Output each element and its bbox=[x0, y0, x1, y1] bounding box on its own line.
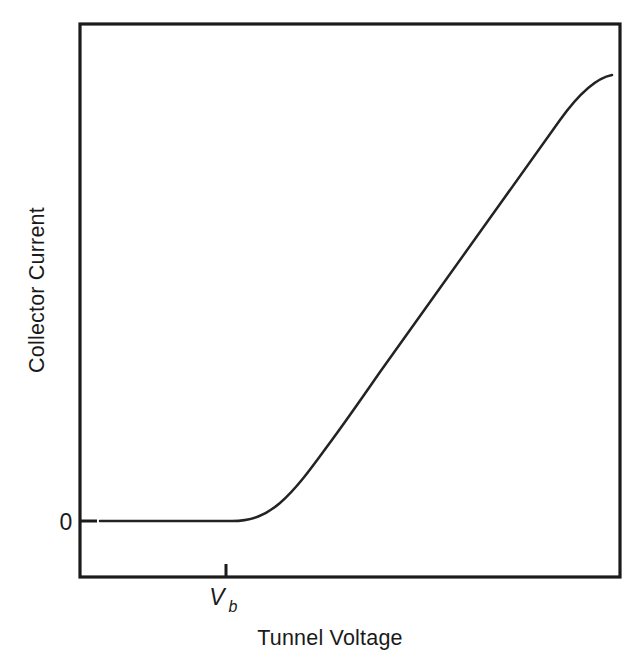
x-tick-label-vb-symbol: V bbox=[209, 584, 227, 610]
figure-container: Collector Current Tunnel Voltage 0 V b bbox=[0, 0, 642, 670]
y-tick-label-zero: 0 bbox=[60, 509, 73, 535]
y-axis-label: Collector Current bbox=[25, 207, 49, 373]
chart-background bbox=[0, 0, 642, 670]
x-tick-label-vb-subscript: b bbox=[229, 598, 238, 615]
x-axis-label: Tunnel Voltage bbox=[257, 626, 402, 650]
tunnel-voltage-chart: Collector Current Tunnel Voltage 0 V b bbox=[0, 0, 642, 670]
